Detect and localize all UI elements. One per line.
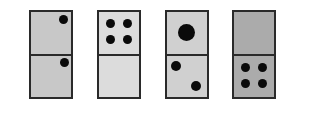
domino-top-half — [167, 12, 207, 54]
pip-dot-icon — [59, 15, 68, 24]
pip-dot-icon — [106, 19, 115, 28]
pip-dot-icon — [123, 35, 132, 44]
domino-bottom-half — [99, 56, 139, 97]
domino-bottom-half — [31, 56, 71, 97]
domino-top-half — [234, 12, 274, 54]
domino-4 — [232, 10, 276, 99]
pip-dot-icon — [258, 63, 267, 72]
domino-divider — [99, 54, 139, 56]
domino-bottom-half — [234, 56, 274, 97]
domino-top-half — [99, 12, 139, 54]
pip-dot-icon — [106, 35, 115, 44]
pip-dot-icon — [60, 58, 69, 67]
domino-divider — [167, 54, 207, 56]
pip-dot-icon — [123, 19, 132, 28]
pip-dot-icon — [241, 79, 250, 88]
pip-dot-icon — [171, 61, 181, 71]
pip-dot-icon — [178, 24, 195, 41]
domino-3 — [165, 10, 209, 99]
domino-2 — [97, 10, 141, 99]
domino-top-half — [31, 12, 71, 54]
pip-dot-icon — [258, 79, 267, 88]
pip-dot-icon — [191, 81, 201, 91]
domino-divider — [31, 54, 71, 56]
pip-dot-icon — [241, 63, 250, 72]
domino-divider — [234, 54, 274, 56]
domino-1 — [29, 10, 73, 99]
domino-bottom-half — [167, 56, 207, 97]
